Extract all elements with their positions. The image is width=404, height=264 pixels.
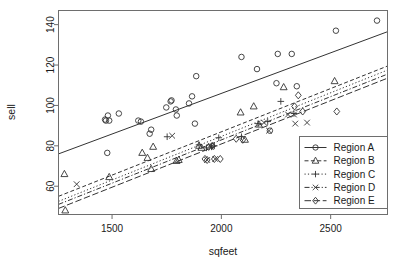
legend-label-1: Region B xyxy=(334,155,375,166)
x-tick-label: 2000 xyxy=(210,223,233,234)
plot-background xyxy=(0,0,404,264)
x-axis-label: sqfeet xyxy=(209,245,238,257)
legend[interactable]: Region ARegion BRegion CRegion DRegion E xyxy=(300,137,388,209)
y-tick-label: 60 xyxy=(45,180,56,192)
y-tick-label: 80 xyxy=(45,140,56,152)
x-tick-label: 1500 xyxy=(101,223,124,234)
y-tick-label: 120 xyxy=(45,56,56,73)
y-tick-label: 140 xyxy=(45,16,56,33)
legend-label-4: Region E xyxy=(334,195,375,206)
x-tick-label: 2500 xyxy=(320,223,343,234)
y-axis-label: sell xyxy=(5,104,17,120)
legend-label-2: Region C xyxy=(334,169,376,180)
legend-label-3: Region D xyxy=(334,182,376,193)
chart-container: 1500200025006080100120140 sqfeet sell Re… xyxy=(0,0,404,264)
legend-label-0: Region A xyxy=(334,142,375,153)
y-tick-label: 100 xyxy=(45,97,56,114)
scatter-plot: 1500200025006080100120140 sqfeet sell Re… xyxy=(0,0,404,264)
